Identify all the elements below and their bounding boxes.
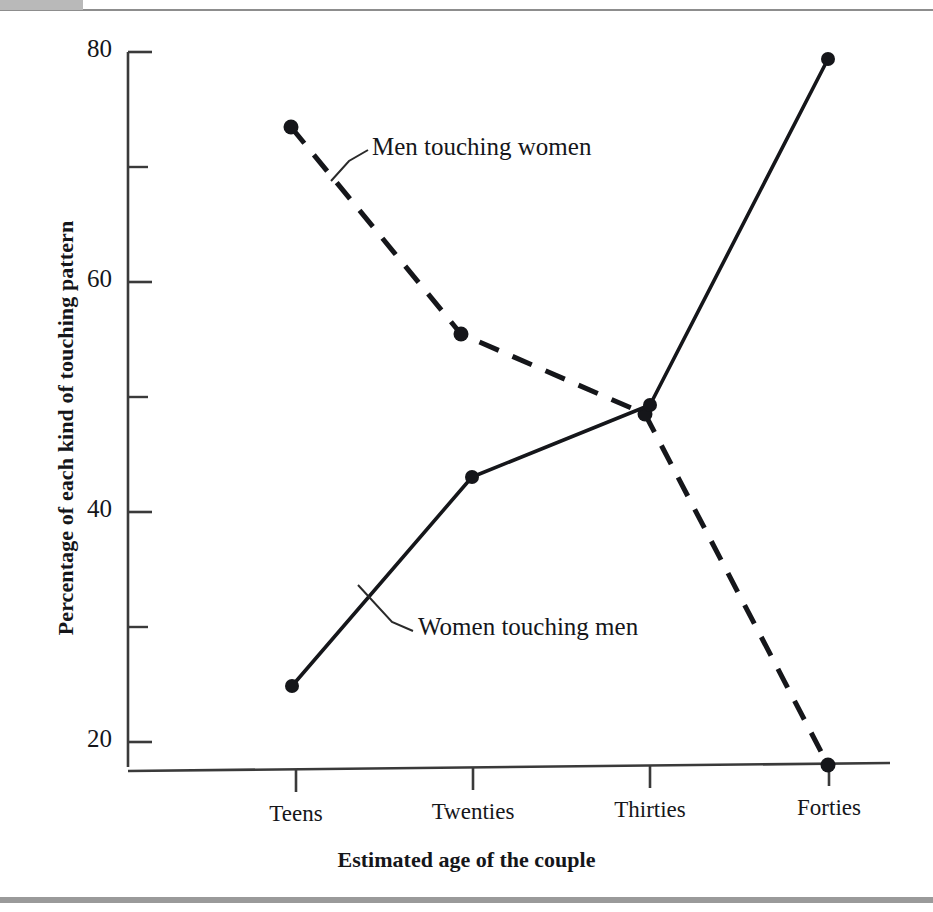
y-axis-title: Percentage of each kind of touching patt… <box>53 218 79 638</box>
y-tick-label-20: 20 <box>32 725 112 753</box>
x-tick-label-forties: Forties <box>729 795 929 821</box>
series-women-touching-men-point <box>643 398 657 412</box>
page-top-band <box>0 0 933 9</box>
x-tick-label-twenties: Twenties <box>373 799 573 825</box>
y-tick-label-80: 80 <box>32 35 112 63</box>
x-axis-title: Estimated age of the couple <box>0 847 933 873</box>
series-label-women-touching-men: Women touching men <box>418 613 638 641</box>
page-bottom-rule <box>0 897 933 903</box>
series-women-touching-men-point <box>821 52 835 66</box>
x-tick-label-teens: Teens <box>196 801 396 827</box>
series-women-touching-men-point <box>465 470 479 484</box>
page-corner-block <box>0 0 83 10</box>
x-tick-label-thirties: Thirties <box>550 797 750 823</box>
series-women-touching-men-point <box>285 679 299 693</box>
annotation-leader-men-touching-women <box>331 150 368 181</box>
series-men-touching-women-point <box>454 327 469 342</box>
series-men-touching-women-point <box>284 120 299 135</box>
series-men-touching-women-point <box>821 758 836 773</box>
x-axis-line <box>128 763 890 771</box>
annotation-leader-women-touching-men <box>358 585 413 631</box>
line-chart-figure: 80 60 40 20 Teens Twenties Thirties Fort… <box>0 11 933 895</box>
series-label-men-touching-women: Men touching women <box>372 133 591 161</box>
series-men-touching-women-line <box>291 127 828 765</box>
